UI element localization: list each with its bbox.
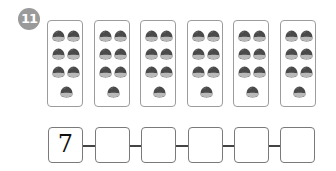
connector-line	[223, 145, 234, 147]
answer-box: 7	[48, 127, 83, 163]
chestnut-icon	[145, 45, 158, 57]
chestnut-icon	[246, 83, 259, 95]
chestnut-icon	[207, 63, 220, 75]
chestnut-icon	[160, 63, 173, 75]
chestnut-icon	[207, 45, 220, 57]
chestnut-icon	[192, 27, 205, 39]
chestnut-icon	[160, 27, 173, 39]
chestnut-icon	[114, 27, 127, 39]
chestnut-icon	[99, 63, 112, 75]
chestnut-icon	[114, 63, 127, 75]
chestnut-card	[233, 20, 269, 107]
chestnut-icon	[52, 63, 65, 75]
chestnut-icon	[293, 83, 306, 95]
chestnut-icon	[300, 27, 313, 39]
chestnut-card	[47, 20, 83, 107]
chestnut-icon	[253, 63, 266, 75]
connector-line	[130, 145, 141, 147]
chestnut-icon	[160, 45, 173, 57]
chestnut-icon	[153, 83, 166, 95]
connector-line	[269, 145, 280, 147]
chestnut-icon	[192, 63, 205, 75]
chestnut-icon	[99, 27, 112, 39]
answer-box[interactable]	[141, 127, 176, 163]
chestnut-icon	[285, 45, 298, 57]
chestnut-card	[140, 20, 176, 107]
connector-line	[83, 145, 95, 147]
chestnut-icon	[67, 45, 80, 57]
chestnut-icon	[145, 27, 158, 39]
chestnut-icon	[107, 83, 120, 95]
chestnut-icon	[285, 63, 298, 75]
chestnut-icon	[192, 45, 205, 57]
chestnut-icon	[200, 83, 213, 95]
chestnut-icon	[207, 27, 220, 39]
chestnut-icon	[145, 63, 158, 75]
chestnut-icon	[67, 27, 80, 39]
chestnut-icon	[52, 27, 65, 39]
answer-box[interactable]	[280, 127, 315, 163]
chestnut-icon	[253, 45, 266, 57]
chestnut-icon	[238, 45, 251, 57]
chestnut-icon	[238, 27, 251, 39]
problem-number-badge: 11	[18, 8, 40, 30]
chestnut-icon	[253, 27, 266, 39]
answer-box[interactable]	[95, 127, 130, 163]
chestnut-card	[187, 20, 223, 107]
chestnut-card	[280, 20, 316, 107]
connector-line	[176, 145, 188, 147]
chestnut-icon	[285, 27, 298, 39]
chestnut-icon	[60, 83, 73, 95]
chestnut-icon	[238, 63, 251, 75]
answer-box[interactable]	[234, 127, 269, 163]
chestnut-icon	[52, 45, 65, 57]
chestnut-icon	[114, 45, 127, 57]
chestnut-icon	[300, 45, 313, 57]
chestnut-icon	[99, 45, 112, 57]
answer-box[interactable]	[188, 127, 223, 163]
chestnut-card	[94, 20, 130, 107]
chestnut-icon	[67, 63, 80, 75]
chestnut-icon	[300, 63, 313, 75]
